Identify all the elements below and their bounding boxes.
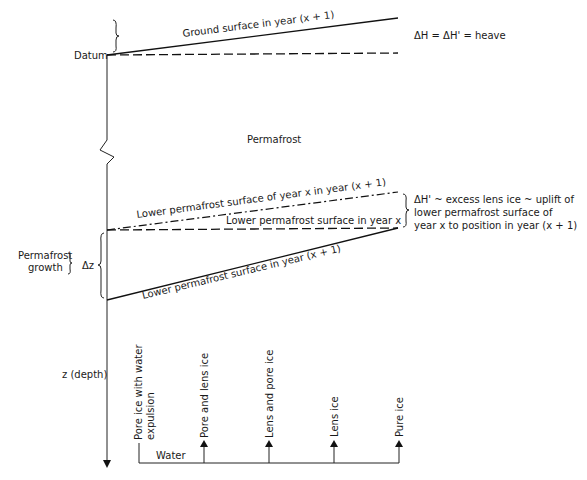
datum-line (107, 53, 398, 55)
heave-label: ΔH = ΔH' = heave (414, 30, 506, 41)
lower-pf-x-label: Lower permafrost surface in year x (226, 215, 401, 226)
arrow-up-icon (330, 440, 338, 447)
excess-ice-line-2: lower permafrost surface of (414, 207, 553, 218)
delta-z-brace (98, 233, 104, 298)
permafrost-growth-line-2: growth (28, 262, 63, 273)
arrow-up-icon (395, 440, 403, 447)
ice-type-pore-with-expulsion-1: Pore ice with water (133, 344, 144, 440)
ice-type-lens-and-pore: Lens and pore ice (264, 350, 275, 438)
depth-axis (100, 55, 114, 468)
permafrost-label: Permafrost (247, 134, 301, 145)
depth-axis-label: z (depth) (62, 369, 107, 380)
datum-label: Datum (74, 50, 108, 61)
ice-type-pore-and-lens: Pore and lens ice (199, 353, 210, 438)
heave-brace (113, 20, 119, 52)
arrow-up-icon (265, 440, 273, 447)
permafrost-heave-diagram: Datum Ground surface in year (x + 1) ΔH … (0, 0, 587, 480)
delta-z-label: Δz (82, 260, 94, 271)
arrow-up-icon (200, 440, 208, 447)
ice-type-pure: Pure ice (394, 397, 405, 437)
water-label: Water (156, 450, 186, 461)
excess-ice-line-1: ΔH' ~ excess lens ice ~ uplift of (414, 194, 574, 205)
ice-type-pore-with-expulsion-2: expulsion (145, 392, 156, 440)
lower-pf-x1-label: Lower permafrost surface in year (x + 1) (141, 243, 342, 301)
diagram-svg: Datum Ground surface in year (x + 1) ΔH … (0, 0, 587, 480)
ground-surface-label: Ground surface in year (x + 1) (182, 9, 335, 39)
permafrost-growth-line-1: Permafrost (18, 250, 72, 261)
lower-pf-x-line (107, 228, 398, 230)
ice-type-lens: Lens ice (329, 396, 340, 437)
excess-ice-line-3: year x to position in year (x + 1) (414, 220, 577, 231)
depth-arrow-icon (103, 460, 111, 468)
excess-ice-brace (403, 194, 409, 227)
